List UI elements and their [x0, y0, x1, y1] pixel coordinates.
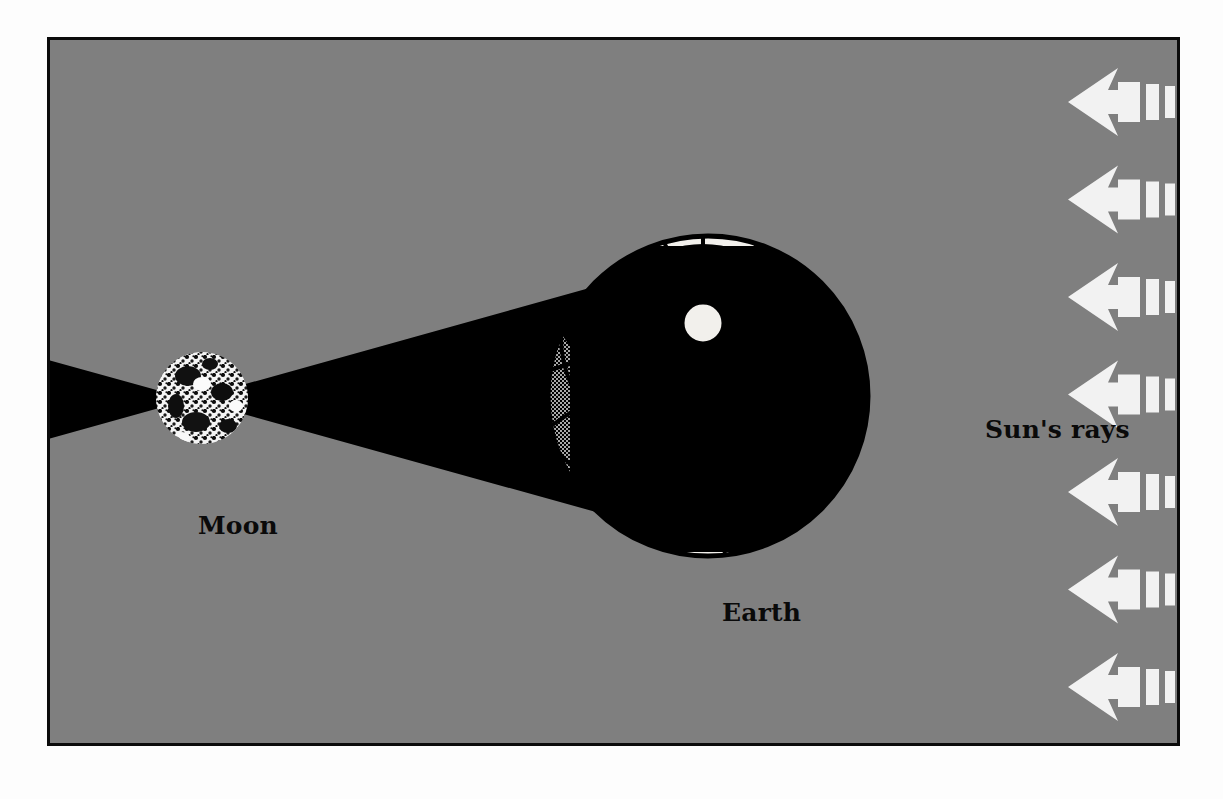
label-moon: Moon: [198, 513, 278, 538]
diagram-page: Moon Earth Sun's rays: [0, 0, 1223, 799]
label-sun-rays: Sun's rays: [985, 417, 1130, 442]
eclipse-scene: [50, 40, 1177, 743]
illustration-frame: Moon Earth Sun's rays: [47, 37, 1180, 746]
label-earth: Earth: [722, 600, 801, 625]
earth-north-pole: [683, 303, 723, 343]
